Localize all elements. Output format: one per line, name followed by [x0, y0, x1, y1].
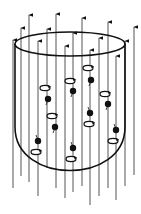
spinning-particle: [83, 65, 94, 86]
field-lines-group: [13, 14, 134, 205]
spinning-particle: [66, 142, 77, 162]
spinning-particle: [47, 113, 58, 133]
particle-dot-icon: [105, 101, 111, 107]
particle-dot-icon: [88, 77, 94, 83]
spinning-particle: [100, 91, 111, 110]
particle-dot-icon: [113, 127, 119, 133]
particle-dot-icon: [87, 110, 93, 116]
particles-group: [31, 65, 119, 162]
particle-dot-icon: [70, 88, 76, 94]
spinning-particle: [108, 124, 119, 144]
spinning-particle: [65, 78, 76, 97]
particle-dot-icon: [35, 138, 41, 144]
spinning-particle: [31, 135, 42, 155]
diagram-canvas: [0, 0, 141, 214]
diagram-figure: Cylindrical vessel with vertical field-l…: [0, 0, 141, 214]
particle-dot-icon: [52, 124, 58, 130]
spinning-particle: [40, 85, 51, 105]
particle-dot-icon: [45, 96, 51, 102]
particle-dot-icon: [70, 145, 76, 151]
